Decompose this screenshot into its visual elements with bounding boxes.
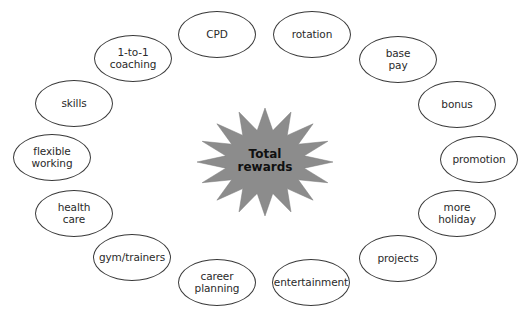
reward-node-bonus: bonus [418, 81, 496, 128]
reward-node-cpd: CPD [178, 11, 256, 58]
reward-node-entertainment: entertainment [272, 259, 350, 306]
reward-node-label: bonus [441, 98, 472, 110]
reward-node-label: career planning [195, 270, 240, 294]
center-starburst: Total rewards [195, 106, 335, 216]
reward-node-more-holiday: more holiday [418, 190, 496, 237]
reward-node-projects: projects [359, 235, 437, 282]
reward-node-skills: skills [35, 80, 113, 127]
reward-node-rotation: rotation [273, 11, 351, 58]
reward-node-label: entertainment [274, 276, 348, 288]
reward-node-label: more holiday [438, 201, 476, 225]
reward-node-label: gym/trainers [99, 251, 165, 263]
reward-node-flexible-working: flexible working [13, 134, 91, 181]
reward-node-promotion: promotion [440, 136, 518, 183]
reward-node-label: health care [58, 201, 91, 225]
reward-node-label: CPD [206, 28, 227, 40]
reward-node-label: rotation [292, 28, 332, 40]
reward-node-label: skills [61, 97, 86, 109]
reward-node-gym-trainers: gym/trainers [93, 234, 171, 281]
reward-node-label: promotion [452, 153, 505, 165]
reward-node-label: 1-to-1 coaching [110, 46, 157, 70]
reward-node-base-pay: base pay [359, 36, 437, 83]
reward-node-label: flexible working [32, 145, 73, 169]
total-rewards-diagram: Total rewards CPD rotation base pay bonu… [0, 0, 531, 316]
reward-node-health-care: health care [35, 190, 113, 237]
reward-node-1-to-1-coaching: 1-to-1 coaching [94, 35, 172, 82]
reward-node-label: projects [377, 252, 418, 264]
reward-node-label: base pay [386, 47, 411, 71]
reward-node-career-planning: career planning [178, 259, 256, 306]
center-label: Total rewards [195, 106, 335, 216]
